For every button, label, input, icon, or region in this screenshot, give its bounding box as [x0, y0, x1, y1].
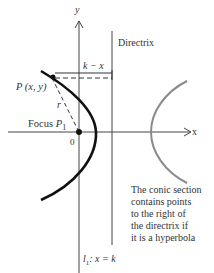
note-line: The conic section	[131, 184, 202, 196]
directrix-label: Directrix	[118, 38, 154, 48]
focus-point-sub: 1	[62, 123, 66, 132]
conic-curve	[41, 71, 96, 200]
origin-label: 0	[70, 138, 75, 147]
r-label: r	[57, 100, 61, 110]
hyperbola-note: The conic section contains points to the…	[131, 184, 202, 244]
directrix-eq-rest: : x = k	[89, 253, 115, 264]
directrix-equation-label: l1: x = k	[83, 254, 116, 267]
focus-point-marker	[76, 129, 82, 135]
horizontal-distance-label: k − x	[83, 61, 104, 71]
note-line: contains points	[131, 196, 202, 208]
note-line: to the right of	[131, 208, 202, 220]
y-axis-label: y	[75, 5, 79, 15]
focus-text: Focus	[28, 118, 53, 129]
note-line: the directrix if	[131, 220, 202, 232]
focus-label: Focus P1	[28, 119, 66, 132]
point-p-marker	[51, 75, 56, 80]
note-line: it is a hyperbola	[131, 232, 202, 244]
x-axis-label: x	[192, 127, 197, 137]
point-p-label: P (x, y)	[16, 82, 46, 93]
